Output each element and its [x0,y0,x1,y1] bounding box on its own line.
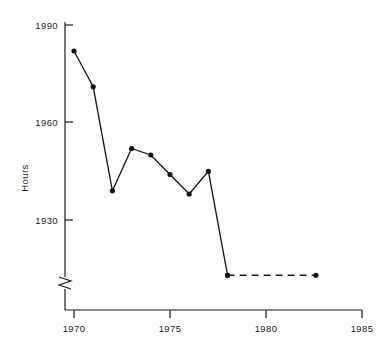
data-series-layer [71,48,318,278]
data-point [71,48,76,53]
chart-svg: Hours 1990 1960 1930 1970 1975 1980 1985 [0,0,386,342]
y-tick-label-1990: 1990 [35,20,58,31]
data-point [91,84,96,89]
data-point [129,146,134,151]
data-point [110,188,115,193]
x-tick-label-1980: 1980 [255,323,278,334]
x-tick-label-1975: 1975 [159,323,182,334]
x-tick-label-1985: 1985 [351,323,374,334]
data-point [225,273,230,278]
series-line-0 [74,51,228,275]
y-tick-label-1930: 1930 [35,215,58,226]
y-axis-break-icon [59,277,71,289]
data-point [206,169,211,174]
data-point [148,152,153,157]
data-point [167,172,172,177]
x-tick-label-1970: 1970 [63,323,86,334]
y-axis-title: Hours [19,164,30,191]
data-point [187,191,192,196]
y-tick-label-1960: 1960 [35,117,58,128]
line-chart: Hours 1990 1960 1930 1970 1975 1980 1985 [0,0,386,342]
data-point [313,273,318,278]
